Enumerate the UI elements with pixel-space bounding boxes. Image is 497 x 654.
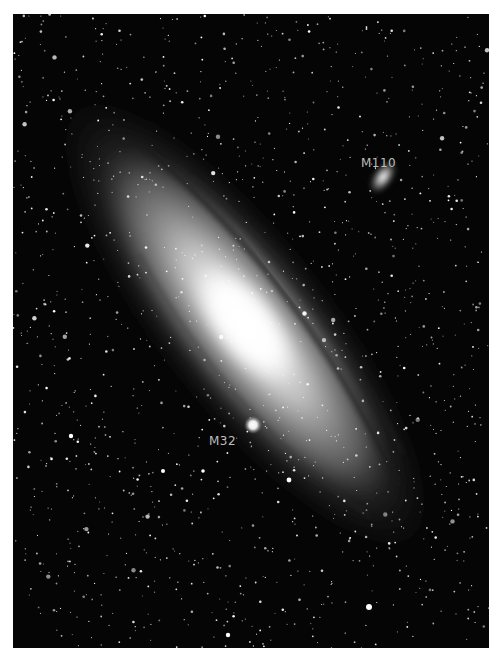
starfield-image: [13, 14, 489, 648]
galaxy-photo: M110 M32: [13, 14, 489, 648]
m32-label: M32: [209, 434, 236, 448]
m110-label: M110: [361, 156, 396, 170]
andromeda-galaxy: [13, 45, 489, 603]
